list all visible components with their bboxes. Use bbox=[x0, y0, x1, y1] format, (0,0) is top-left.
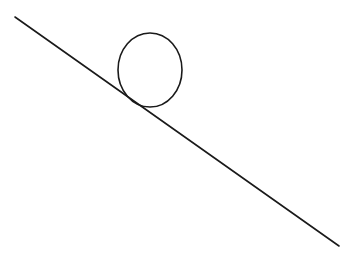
circle-ball bbox=[118, 33, 182, 107]
diagram-canvas bbox=[0, 0, 353, 260]
